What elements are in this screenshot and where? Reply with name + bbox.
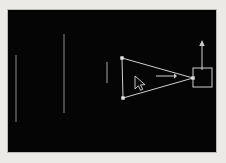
application-window bbox=[0, 0, 226, 163]
mouse-cursor bbox=[135, 76, 145, 90]
3d-wireframe-viewport[interactable] bbox=[8, 10, 216, 152]
vertical-direction-arrow[interactable] bbox=[199, 40, 205, 70]
vertex-handle-bottom-left[interactable] bbox=[121, 96, 124, 99]
horizontal-direction-arrow[interactable] bbox=[156, 73, 177, 79]
vertex-handle-top-left[interactable] bbox=[120, 56, 123, 59]
cursor-arrow-icon bbox=[135, 76, 145, 90]
viewport-canvas[interactable] bbox=[8, 10, 216, 152]
cone-wireframe-shape[interactable] bbox=[122, 58, 193, 98]
horizontal-direction-arrow-head bbox=[174, 73, 177, 79]
vertical-direction-arrow-head bbox=[199, 40, 205, 46]
target-square-shape[interactable] bbox=[193, 68, 212, 87]
